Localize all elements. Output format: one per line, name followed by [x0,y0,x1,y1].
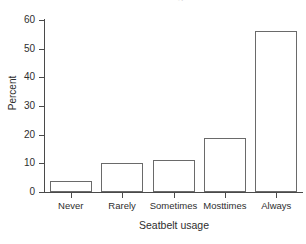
bar [101,163,143,192]
plot-area [45,20,302,192]
y-tick-mark [39,192,45,193]
y-tick-label: 50 [0,44,35,54]
y-tick-label: 60 [0,15,35,25]
x-tick-mark [174,193,175,198]
bar-chart: Seatbelt usage Percent Seatbelt usage 01… [0,0,306,244]
bar [204,138,246,192]
x-tick-mark [225,193,226,198]
x-tick-label: Mosttimes [199,200,250,211]
x-tick-mark [71,193,72,198]
y-axis-title: Percent [8,58,18,128]
bar [153,160,195,192]
y-tick-label: 20 [0,130,35,140]
x-tick-label: Always [251,200,302,211]
x-tick-label: Sometimes [148,200,199,211]
x-tick-label: Rarely [96,200,147,211]
bar [50,181,92,192]
y-tick-label: 40 [0,72,35,82]
y-tick-label: 10 [0,158,35,168]
x-tick-mark [122,193,123,198]
x-axis-title: Seatbelt usage [45,219,303,231]
bar [255,31,297,192]
x-tick-label: Never [45,200,96,211]
chart-title-cropped: Seatbelt usage [0,0,306,1]
y-tick-label: 0 [0,187,35,197]
y-tick-label: 30 [0,101,35,111]
x-tick-mark [276,193,277,198]
